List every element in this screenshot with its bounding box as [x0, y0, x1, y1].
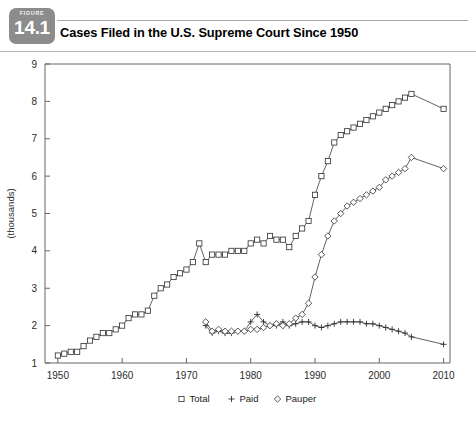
data-point-pauper — [305, 300, 311, 306]
data-point-pauper — [440, 165, 446, 171]
data-point-total — [87, 338, 92, 343]
data-point-total — [345, 129, 350, 134]
data-point-total — [370, 114, 375, 119]
data-point-total — [177, 271, 182, 276]
data-point-total — [338, 132, 343, 137]
data-point-total — [132, 312, 137, 317]
x-tick-label: 2010 — [432, 370, 455, 381]
y-tick-label: 2 — [31, 320, 37, 331]
data-point-paid — [383, 324, 389, 330]
chart-legend: TotalPaidPauper — [179, 393, 316, 404]
x-tick-label: 1960 — [111, 370, 134, 381]
data-point-total — [145, 308, 150, 313]
data-point-pauper — [325, 233, 331, 239]
x-tick-label: 2000 — [368, 370, 391, 381]
data-point-total — [113, 327, 118, 332]
data-point-total — [107, 331, 112, 336]
data-point-total — [55, 353, 60, 358]
data-point-pauper — [299, 311, 305, 317]
data-point-total — [383, 106, 388, 111]
data-point-total — [171, 274, 176, 279]
series-line-pauper — [206, 157, 444, 331]
data-point-pauper — [312, 274, 318, 280]
data-point-total — [165, 282, 170, 287]
data-point-total — [120, 323, 125, 328]
data-point-pauper — [241, 328, 247, 334]
data-point-paid — [441, 341, 447, 347]
data-point-paid — [376, 323, 382, 329]
data-point-total — [319, 174, 324, 179]
data-point-paid — [318, 324, 324, 330]
data-point-total — [62, 351, 67, 356]
data-point-pauper — [203, 319, 209, 325]
data-point-pauper — [402, 165, 408, 171]
chart-plot-area: 1234567891950196019701980199020002010(th… — [0, 52, 476, 421]
series-line-total — [58, 94, 444, 356]
data-point-total — [81, 344, 86, 349]
data-point-total — [396, 99, 401, 104]
data-point-total — [390, 103, 395, 108]
data-point-total — [184, 267, 189, 272]
data-point-total — [216, 252, 221, 257]
data-point-total — [293, 233, 298, 238]
data-point-pauper — [370, 188, 376, 194]
title-rule-top — [57, 20, 468, 21]
data-point-total — [94, 334, 99, 339]
x-tick-label: 1990 — [304, 370, 327, 381]
figure-badge-label: FIGURE — [9, 10, 55, 17]
data-point-total — [203, 259, 208, 264]
x-tick-label: 1950 — [47, 370, 70, 381]
data-point-paid — [396, 328, 402, 334]
data-point-total — [332, 140, 337, 145]
data-point-total — [287, 245, 292, 250]
data-point-total — [267, 233, 272, 238]
data-point-total — [255, 237, 260, 242]
data-point-paid — [389, 326, 395, 332]
data-point-pauper — [254, 326, 260, 332]
data-point-pauper — [260, 324, 266, 330]
data-point-paid — [351, 319, 357, 325]
data-point-paid — [344, 319, 350, 325]
data-point-total — [306, 218, 311, 223]
y-axis-title: (thousands) — [5, 188, 16, 238]
data-point-pauper — [363, 192, 369, 198]
data-point-pauper — [408, 154, 414, 160]
data-point-pauper — [395, 169, 401, 175]
y-tick-label: 6 — [31, 171, 37, 182]
x-tick-label: 1980 — [240, 370, 263, 381]
data-point-total — [274, 237, 279, 242]
data-point-paid — [312, 323, 318, 329]
x-tick-label: 1970 — [175, 370, 198, 381]
data-point-paid — [306, 319, 312, 325]
page-title: Cases Filed in the U.S. Supreme Court Si… — [60, 25, 470, 40]
data-point-paid — [363, 321, 369, 327]
data-point-paid — [357, 319, 363, 325]
y-tick-label: 4 — [31, 245, 37, 256]
data-point-total — [222, 252, 227, 257]
data-point-total — [351, 125, 356, 130]
data-point-total — [242, 248, 247, 253]
legend-label-paid: Paid — [240, 393, 259, 404]
data-point-total — [139, 312, 144, 317]
data-point-paid — [408, 334, 414, 340]
data-point-pauper — [350, 199, 356, 205]
figure-badge-number: 14.1 — [9, 17, 55, 38]
y-tick-label: 1 — [31, 358, 37, 369]
data-point-total — [235, 248, 240, 253]
data-point-total — [229, 248, 234, 253]
data-point-total — [68, 349, 73, 354]
data-point-paid — [299, 319, 305, 325]
data-point-total — [100, 331, 105, 336]
y-tick-label: 9 — [31, 59, 37, 70]
legend-marker-paid — [229, 396, 235, 402]
legend-marker-total — [179, 396, 184, 401]
data-point-paid — [370, 321, 376, 327]
data-point-total — [197, 241, 202, 246]
data-point-pauper — [248, 326, 254, 332]
data-point-pauper — [357, 195, 363, 201]
data-point-paid — [402, 330, 408, 336]
data-point-pauper — [389, 173, 395, 179]
y-tick-label: 7 — [31, 133, 37, 144]
data-point-total — [312, 192, 317, 197]
data-point-total — [75, 349, 80, 354]
